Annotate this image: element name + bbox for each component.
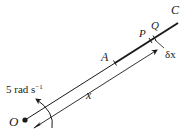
angular-speed-value: 5 rad s bbox=[6, 83, 35, 95]
label-q: Q bbox=[151, 19, 159, 31]
distance-x-arrow bbox=[34, 50, 157, 128]
pivot-point-o bbox=[22, 117, 27, 122]
distance-x-arrowhead-start bbox=[33, 122, 42, 129]
label-p: P bbox=[138, 27, 146, 39]
label-distance-x: x bbox=[85, 88, 92, 102]
label-a: A bbox=[100, 50, 109, 64]
rotating-rod-diagram: O A P Q C δx x 5 rad s−1 bbox=[0, 0, 185, 138]
label-c: C bbox=[171, 3, 180, 17]
label-o: O bbox=[9, 114, 19, 129]
label-delta-x: δx bbox=[165, 48, 176, 60]
rod-segment-oa bbox=[25, 63, 115, 120]
label-angular-speed: 5 rad s−1 bbox=[6, 83, 43, 95]
delta-x-leader bbox=[155, 40, 164, 48]
angular-speed-exponent: −1 bbox=[35, 83, 43, 91]
